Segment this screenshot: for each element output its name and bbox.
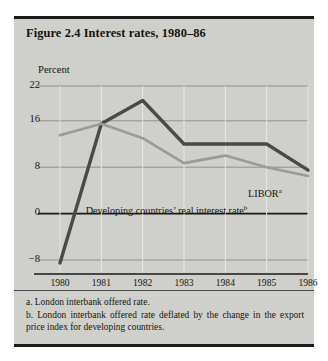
figure-container: Figure 2.4 Interest rates, 1980–86 Perce…: [0, 0, 328, 361]
note-a: a. London interbank offered rate.: [26, 296, 304, 309]
top-rule: [14, 16, 314, 19]
note-b: b. London interbank offered rate deflate…: [26, 309, 304, 334]
y-tick-label-22: 22: [14, 79, 40, 90]
x-tick-label-1986: 1986: [288, 277, 328, 288]
x-tick-label-1985: 1985: [247, 277, 287, 288]
x-tick-label-1981: 1981: [81, 277, 121, 288]
y-axis-unit-label: Percent: [38, 64, 70, 75]
y-tick-label-16: 16: [14, 113, 40, 124]
x-tick-label-1982: 1982: [123, 277, 163, 288]
real-rate-footnote-marker: b: [244, 204, 248, 212]
y-tick-label-8: 8: [14, 160, 40, 171]
x-tick-label-1984: 1984: [205, 277, 245, 288]
series-label-libor: LIBORa: [248, 187, 282, 199]
libor-footnote-marker: a: [279, 187, 282, 195]
figure-title: Figure 2.4 Interest rates, 1980–86: [26, 26, 306, 41]
gridlines-group: [38, 86, 308, 272]
line-chart-svg: [14, 60, 314, 290]
notes-divider-rule: [14, 290, 314, 291]
figure-notes: a. London interbank offered rate. b. Lon…: [26, 296, 304, 334]
y-tick-label-0: 0: [14, 206, 40, 217]
x-tick-label-1980: 1980: [40, 277, 80, 288]
y-tick-label--8: −8: [14, 253, 40, 264]
bottom-rule: [14, 344, 314, 347]
chart-plot-area: Percent 221680−8 19801981198219831984198…: [14, 60, 314, 290]
series-label-real-interest-rate: Developing countries’ real interest rate…: [86, 204, 248, 216]
x-tick-label-1983: 1983: [164, 277, 204, 288]
